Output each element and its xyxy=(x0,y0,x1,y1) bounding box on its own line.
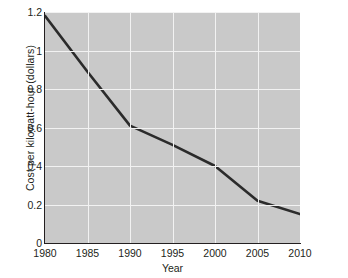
x-axis-spine xyxy=(44,243,301,244)
plot-area xyxy=(45,12,300,243)
y-tick-label: 0.8 xyxy=(16,84,42,94)
x-tick-label: 1990 xyxy=(108,247,152,259)
x-tick-label: 2005 xyxy=(236,247,280,259)
gridline-horizontal xyxy=(45,166,300,167)
gridline-horizontal xyxy=(45,128,300,129)
chart-figure: Cost per kilowatt-hour (dollars) 00.20.4… xyxy=(0,0,348,278)
x-axis-title: Year xyxy=(45,262,300,274)
y-tick-label: 0.6 xyxy=(16,123,42,133)
x-tick-label: 1985 xyxy=(66,247,110,259)
y-tick-label: 1 xyxy=(16,46,42,56)
gridline-horizontal xyxy=(45,51,300,52)
y-axis-tick-labels: 00.20.40.60.811.2 xyxy=(14,0,42,278)
gridline-horizontal xyxy=(45,205,300,206)
gridline-horizontal xyxy=(45,12,300,13)
x-axis-tick-labels: 1980198519901995200020052010 xyxy=(45,247,300,263)
y-axis-spine xyxy=(44,12,45,244)
x-tick-label: 2000 xyxy=(193,247,237,259)
gridline-horizontal xyxy=(45,89,300,90)
y-tick-label: 1.2 xyxy=(16,7,42,17)
y-tick-label: 0.4 xyxy=(16,161,42,171)
x-tick-label: 1995 xyxy=(151,247,195,259)
x-tick-label: 2010 xyxy=(278,247,322,259)
y-tick-label: 0.2 xyxy=(16,200,42,210)
x-tick-label: 1980 xyxy=(23,247,67,259)
